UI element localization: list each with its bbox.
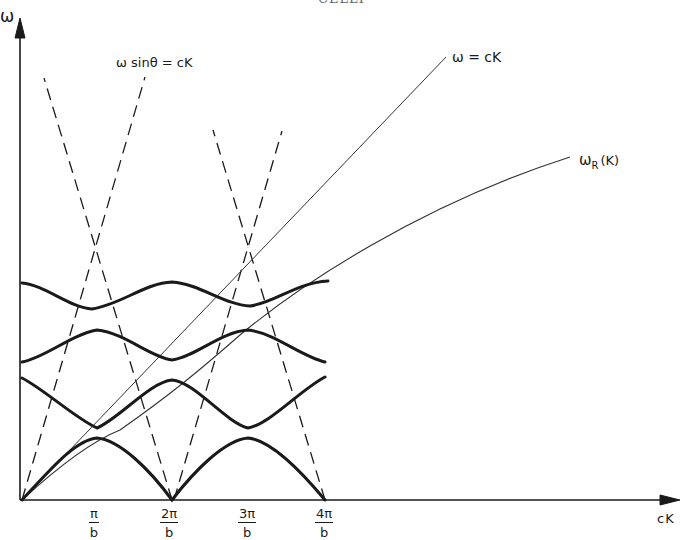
light-line <box>22 57 446 500</box>
dispersion-diagram <box>0 0 683 540</box>
x-tick-3pi: 3πb <box>238 507 256 539</box>
resonance-arg: (K) <box>601 153 620 168</box>
light-line-label: ω = cK <box>452 49 501 65</box>
y-axis-arrow-icon <box>15 18 25 38</box>
band-4 <box>22 281 328 309</box>
dashed-line-2pi-left <box>44 78 172 500</box>
x-tick-4pi: 4πb <box>315 507 333 539</box>
resonance-curve <box>22 157 570 500</box>
refraction-label: ω sinθ = cK <box>116 55 192 70</box>
resonance-subscript: R <box>592 160 599 171</box>
y-axis-label: ω <box>0 6 14 26</box>
resonance-curve-label: ωR(K) <box>579 151 619 171</box>
x-axis-label: cK <box>657 511 675 526</box>
x-tick-pi: πb <box>89 507 99 539</box>
band-2 <box>22 377 325 428</box>
band-1 <box>22 438 325 500</box>
bands <box>22 281 328 500</box>
x-tick-2pi: 2πb <box>160 507 178 539</box>
resonance-omega: ω <box>579 151 592 169</box>
refraction-lines <box>22 77 325 500</box>
x-axis-arrow-icon <box>660 495 680 505</box>
